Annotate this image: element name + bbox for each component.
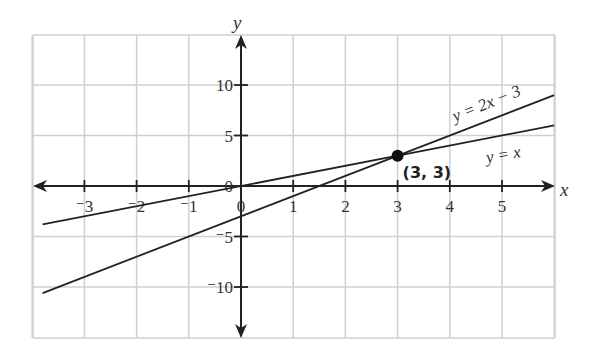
x-tick-label: 5	[498, 197, 507, 216]
line-label-y-x: y = x	[482, 142, 522, 167]
x-tick-label: 0	[237, 197, 246, 216]
point-label: (3, 3)	[403, 163, 452, 182]
line-label-y-2x-minus-3: y = 2x − 3	[448, 81, 524, 126]
y-tick-label: 5	[225, 127, 234, 146]
data-lines	[43, 95, 555, 293]
x-tick-label: 4	[446, 197, 455, 216]
y-tick-label: ⁻10	[207, 278, 233, 297]
y-tick-label: 0	[225, 177, 234, 196]
x-tick-label: 2	[341, 197, 350, 216]
x-tick-label: ⁻3	[76, 197, 93, 216]
x-axis-label: x	[559, 179, 569, 200]
y-tick-label: ⁻5	[216, 228, 233, 247]
line-y-2x-minus-3	[43, 95, 555, 293]
y-axis-label: y	[231, 12, 242, 33]
intersection-point	[392, 150, 404, 162]
x-tick-label: 1	[289, 197, 298, 216]
y-tick-label: 10	[216, 76, 233, 95]
chart: ⁻3⁻2⁻1012345⁻10⁻50510 yx(3, 3)y = 2x − 3…	[0, 0, 597, 350]
x-tick-label: ⁻1	[180, 197, 197, 216]
x-tick-label: 3	[393, 197, 402, 216]
line-y-x	[43, 125, 555, 224]
annotations: yx(3, 3)y = 2x − 3y = x	[231, 12, 569, 200]
